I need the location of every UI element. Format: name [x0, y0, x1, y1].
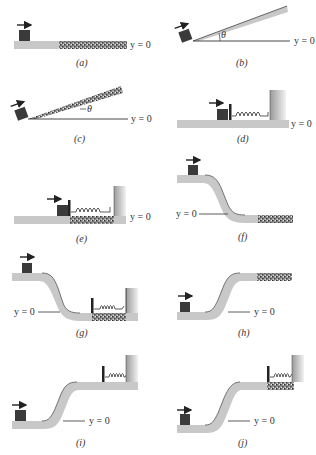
block [188, 165, 198, 175]
rough-track [267, 382, 294, 390]
caption-c: (c) [74, 133, 86, 145]
y-zero-label: y = 0 [254, 306, 275, 317]
panel-c: θ y = 0 (c) [11, 86, 152, 145]
spring-plate [102, 366, 105, 382]
rough-track [92, 313, 126, 321]
spring [232, 112, 268, 116]
rough-incline [28, 86, 123, 119]
caption-i: (i) [76, 437, 86, 449]
panel-g: y = 0 (g) [12, 257, 138, 339]
wall [114, 186, 126, 216]
caption-b: (b) [236, 57, 248, 69]
y-zero-label: y = 0 [14, 306, 35, 317]
wall [270, 90, 286, 120]
wall [292, 355, 304, 382]
spring-plate [68, 200, 71, 216]
caption-a: (a) [76, 57, 88, 69]
spring [71, 207, 110, 212]
smooth-track [177, 120, 289, 128]
caption-g: (g) [76, 327, 88, 339]
caption-d: (d) [237, 133, 249, 145]
panel-e: y = 0 (e) [14, 186, 151, 245]
rough-track [59, 41, 127, 49]
block [178, 29, 192, 43]
y-zero-label: y = 0 [254, 415, 275, 426]
caption-e: (e) [76, 233, 88, 245]
spring-plate [267, 366, 270, 382]
velocity-arrow-icon [11, 102, 24, 107]
theta-label: θ [87, 103, 92, 114]
panel-b: θ y = 0 (b) [175, 6, 315, 69]
panel-h: y = 0 (h) [177, 273, 292, 339]
y-zero-label: y = 0 [130, 211, 151, 222]
block [22, 263, 32, 273]
panel-a: y = 0 (a) [14, 25, 151, 69]
rough-track [70, 216, 114, 224]
spring [105, 374, 127, 378]
smooth-track [12, 382, 138, 429]
y-zero-label: y = 0 [176, 208, 197, 219]
y-zero-label: y = 0 [130, 39, 151, 50]
spring [94, 306, 124, 310]
panel-j: y = 0 (j) [177, 355, 304, 449]
panel-d: y = 0 (d) [177, 90, 312, 145]
y-zero-label: y = 0 [89, 415, 110, 426]
block [57, 205, 68, 216]
caption-h: (h) [238, 327, 250, 339]
panel-i: y = 0 (i) [12, 355, 138, 449]
block [15, 410, 26, 421]
velocity-arrow-icon [175, 24, 188, 29]
block [180, 414, 190, 425]
smooth-track [14, 216, 70, 224]
theta-label: θ [221, 29, 226, 40]
caption-f: (f) [238, 231, 248, 243]
block [19, 30, 30, 41]
spring-plate [91, 298, 94, 313]
spring-plate [229, 104, 232, 120]
caption-j: (j) [238, 437, 248, 449]
spring [270, 374, 292, 378]
block [14, 107, 28, 121]
wall [126, 355, 138, 382]
y-zero-label: y = 0 [291, 118, 312, 129]
smooth-track [14, 41, 59, 49]
y-zero-label: y = 0 [294, 35, 315, 46]
y-zero-label: y = 0 [131, 113, 152, 124]
wall [126, 288, 138, 313]
physics-figure: y = 0 (a) θ y = 0 (b) θ y = 0 (c) [0, 0, 316, 455]
panel-f: y = 0 (f) [176, 160, 293, 243]
block [180, 302, 190, 312]
rough-track [258, 215, 293, 223]
block [217, 109, 228, 120]
rough-track [257, 273, 292, 281]
